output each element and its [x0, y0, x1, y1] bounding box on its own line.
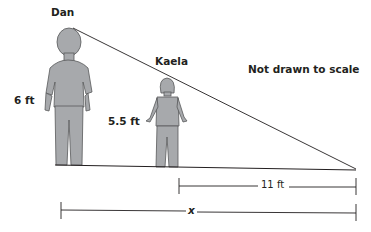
- diagram-canvas: Dan Kaela 6 ft 5.5 ft Not drawn to scale…: [0, 0, 371, 232]
- diagram-graphics: [0, 0, 371, 232]
- dan-figure: [45, 28, 92, 165]
- kaela-figure: [146, 78, 187, 167]
- dimension-x: [61, 202, 356, 221]
- sight-line: [73, 28, 356, 169]
- shadow-length-label: 11 ft: [261, 179, 284, 190]
- scale-note: Not drawn to scale: [248, 63, 359, 75]
- kaela-height-label: 5.5 ft: [108, 115, 140, 127]
- kaela-name-label: Kaela: [155, 55, 188, 67]
- total-distance-label: x: [188, 204, 195, 216]
- dan-name-label: Dan: [51, 6, 74, 18]
- dan-height-label: 6 ft: [14, 94, 35, 106]
- ground-line: [55, 165, 356, 170]
